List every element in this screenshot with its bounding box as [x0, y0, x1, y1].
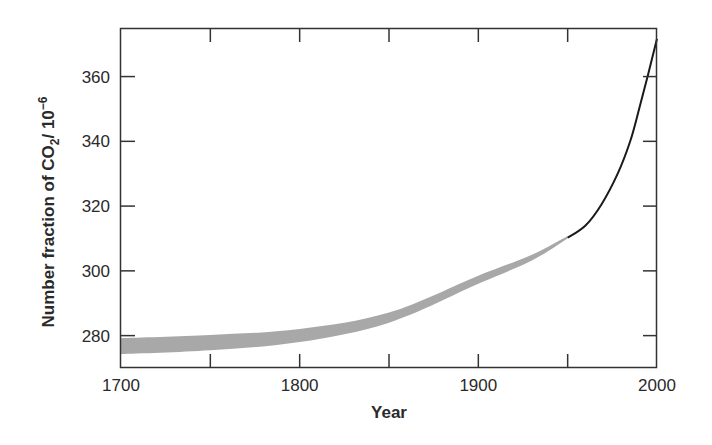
x-axis-title: Year	[371, 403, 407, 422]
y-tick-label: 300	[82, 262, 110, 281]
y-tick-label: 340	[82, 132, 110, 151]
x-tick-label: 2000	[638, 376, 676, 395]
x-tick-label: 1900	[459, 376, 497, 395]
plot-area	[121, 28, 658, 368]
x-axis-tick-labels: 1700180019002000	[102, 376, 676, 395]
y-axis-title-middle: / 10	[39, 110, 58, 138]
y-axis-title-prefix: Number fraction of CO	[39, 145, 58, 327]
y-tick-label: 320	[82, 197, 110, 216]
y-axis-ticks	[121, 77, 657, 336]
y-axis-title-superscript: −6	[36, 96, 50, 110]
ice-core-band	[121, 236, 568, 354]
co2-chart: 1700180019002000 280300320340360 Year Nu…	[0, 0, 712, 445]
y-tick-label: 280	[82, 327, 110, 346]
y-tick-label: 360	[82, 68, 110, 87]
y-axis-tick-labels: 280300320340360	[82, 68, 110, 346]
x-tick-label: 1800	[281, 376, 319, 395]
x-tick-label: 1700	[102, 376, 140, 395]
measurement-line	[568, 39, 657, 238]
y-axis-title: Number fraction of CO2/ 10−6	[36, 96, 62, 327]
